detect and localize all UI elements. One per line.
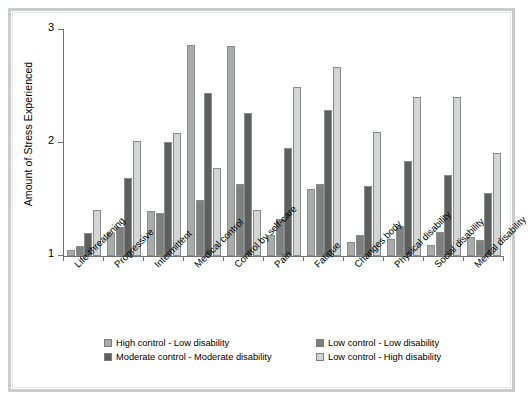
bar-group <box>343 30 383 256</box>
y-tick-label: 2 <box>48 134 54 146</box>
legend-swatch <box>104 339 112 347</box>
legend-item: High control - Low disability <box>104 338 229 348</box>
x-axis-labels: Life-threateningProgressiveIntermittentM… <box>63 258 513 328</box>
legend-swatch <box>104 353 112 361</box>
legend-label: Moderate control - Moderate disability <box>116 352 272 362</box>
bar-group <box>143 30 183 256</box>
legend-row: Moderate control - Moderate disabilityLo… <box>104 352 464 366</box>
bar-group <box>303 30 343 256</box>
bar <box>67 250 75 256</box>
legend-swatch <box>316 339 324 347</box>
legend-swatch <box>316 353 324 361</box>
bar <box>427 245 435 256</box>
legend-item: Low control - Low disability <box>316 338 439 348</box>
bar <box>293 87 301 257</box>
bar-group <box>63 30 103 256</box>
bar <box>324 110 332 256</box>
bar <box>164 142 172 256</box>
legend-label: Low control - High disability <box>328 352 441 362</box>
y-tick-label: 1 <box>48 247 54 259</box>
bar-group <box>383 30 423 256</box>
bar <box>204 93 212 256</box>
bar-group <box>183 30 223 256</box>
legend-label: High control - Low disability <box>116 338 229 348</box>
legend-item: Low control - High disability <box>316 352 441 362</box>
bar <box>333 67 341 256</box>
bar <box>244 113 252 257</box>
bar <box>284 148 292 256</box>
bar <box>316 184 324 256</box>
legend-row: High control - Low disabilityLow control… <box>104 338 464 352</box>
bar <box>196 200 204 257</box>
legend-label: Low control - Low disability <box>328 338 439 348</box>
y-tick-label: 3 <box>48 21 54 33</box>
chart-legend: High control - Low disabilityLow control… <box>104 338 464 366</box>
bar <box>347 242 355 256</box>
bar <box>187 45 195 256</box>
y-axis-title: Amount of Stress Experienced <box>22 44 34 224</box>
bar <box>307 189 315 256</box>
bar <box>156 213 164 256</box>
legend-item: Moderate control - Moderate disability <box>104 352 272 362</box>
